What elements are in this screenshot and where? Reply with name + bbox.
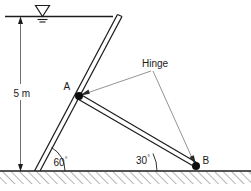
- arrow-up-icon: [18, 17, 23, 25]
- water-table-icon: [36, 6, 50, 23]
- point-a-label: A: [64, 81, 71, 92]
- angle-30-degree-symbol: °: [147, 154, 150, 161]
- depth-label: 5 m: [14, 88, 31, 99]
- hinge-leaders: Hinge: [80, 58, 197, 166]
- angle-30-label: 30°: [136, 154, 150, 166]
- gate-top-cap: [118, 15, 123, 17]
- gate-hinge-diagram: 5 m 60° 30° Hinge: [0, 0, 251, 191]
- angle-30-value: 30: [136, 155, 148, 166]
- ground-hatch-fill: [0, 172, 251, 186]
- hinge-node-a: [75, 92, 83, 100]
- gate-edge-left: [35, 15, 118, 172]
- ground-hatching-icon: [0, 171, 251, 185]
- hinge-node-b: [192, 162, 200, 170]
- point-b-label: B: [203, 155, 210, 166]
- water-table-triangle: [36, 6, 50, 17]
- angle-60-value: 60: [54, 157, 66, 168]
- angle-60-marker: 60°: [52, 148, 68, 172]
- figure-root: 5 m 60° 30° Hinge: [0, 0, 251, 191]
- angle-30-arc: [153, 154, 157, 172]
- angle-60-label: 60°: [54, 156, 68, 168]
- angle-60-degree-symbol: °: [65, 156, 68, 163]
- hinge-leader-to-a: [87, 71, 151, 93]
- hinge-label: Hinge: [142, 58, 169, 69]
- depth-dimension: 5 m: [10, 17, 40, 172]
- angle-30-marker: 30°: [136, 154, 157, 172]
